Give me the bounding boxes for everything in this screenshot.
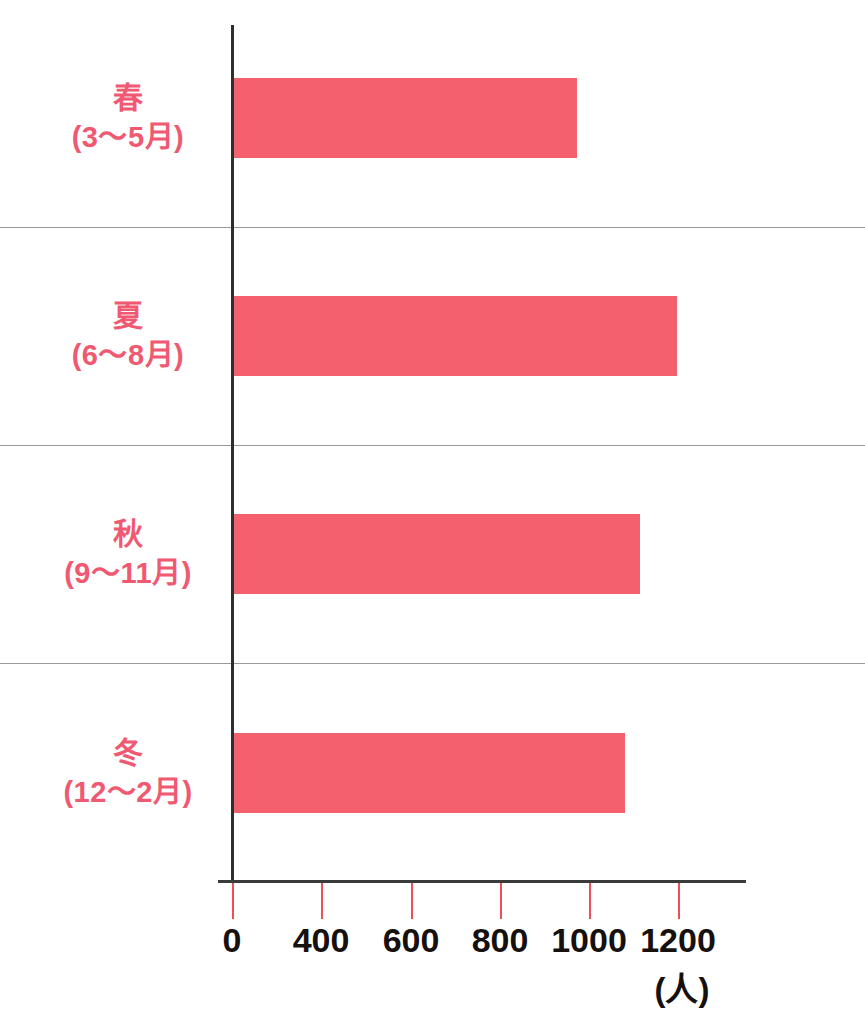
category-label-winter: 冬 (12～2月) [30, 733, 226, 811]
x-axis-tick-1000 [589, 883, 591, 919]
x-axis-tick-400 [321, 883, 323, 919]
row-separator-2 [0, 445, 865, 446]
x-axis-tick-1200 [678, 883, 680, 919]
seasonal-visitors-bar-chart: 春 (3～5月) 夏 (6～8月) 秋 (9～11月) 冬 (12～2月) 0 … [0, 0, 865, 1029]
category-label-summer: 夏 (6～8月) [30, 296, 226, 374]
category-label-winter-season: 冬 [113, 736, 144, 769]
category-label-spring: 春 (3～5月) [30, 78, 226, 156]
bar-spring [232, 78, 577, 158]
category-label-summer-season: 夏 [113, 299, 144, 332]
x-axis-label-400: 400 [293, 921, 350, 960]
x-axis-unit-label: (人) [655, 963, 710, 1011]
x-axis-line [218, 880, 746, 883]
x-axis-tick-600 [411, 883, 413, 919]
category-label-autumn: 秋 (9～11月) [30, 514, 226, 592]
category-label-autumn-season: 秋 [113, 517, 144, 550]
x-axis-tick-800 [500, 883, 502, 919]
bar-summer [232, 296, 677, 376]
bar-autumn [232, 514, 640, 594]
row-separator-1 [0, 227, 865, 228]
x-axis-label-800: 800 [472, 921, 529, 960]
x-axis-label-1200: 1200 [640, 921, 716, 960]
category-label-summer-months: (6～8月) [30, 336, 226, 374]
x-axis-label-1000: 1000 [551, 921, 627, 960]
row-separator-3 [0, 663, 865, 664]
category-label-spring-months: (3～5月) [30, 118, 226, 156]
bar-winter [232, 733, 625, 813]
x-axis-tick-0 [232, 883, 234, 919]
category-label-spring-season: 春 [113, 81, 144, 114]
category-label-autumn-months: (9～11月) [30, 554, 226, 592]
x-axis-label-600: 600 [383, 921, 440, 960]
x-axis-label-0: 0 [223, 921, 242, 960]
category-label-winter-months: (12～2月) [30, 773, 226, 811]
y-axis-line [231, 25, 234, 882]
